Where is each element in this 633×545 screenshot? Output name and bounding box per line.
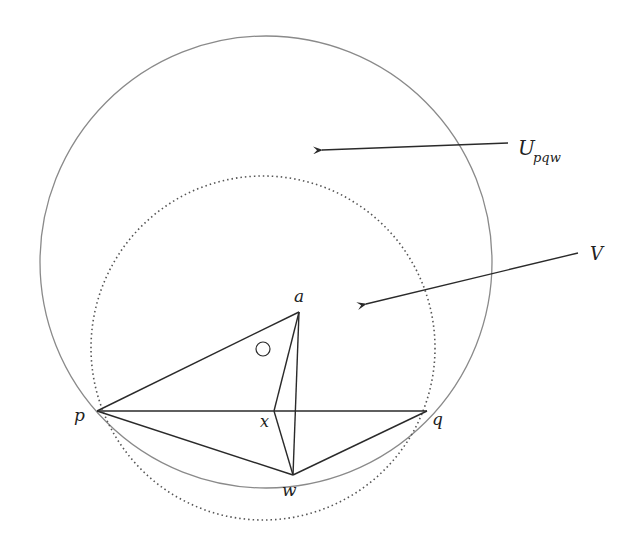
angle-marker-circle — [256, 342, 270, 356]
label-p: p — [74, 405, 85, 425]
segment-a-w — [293, 312, 299, 475]
figure-lines — [97, 312, 427, 475]
arrow-u-pqw — [322, 143, 508, 150]
arrow-v — [366, 253, 578, 304]
segment-x-w — [274, 411, 293, 475]
geometric-diagram: U pqw V a p q x w — [0, 0, 633, 545]
label-a: a — [294, 286, 304, 306]
segment-p-a — [97, 312, 299, 411]
label-w: w — [282, 480, 297, 500]
circle-v — [91, 176, 435, 520]
label-v: V — [590, 243, 605, 264]
label-q: q — [432, 409, 443, 429]
label-u-subscript: pqw — [533, 150, 561, 165]
label-x: x — [260, 412, 269, 431]
